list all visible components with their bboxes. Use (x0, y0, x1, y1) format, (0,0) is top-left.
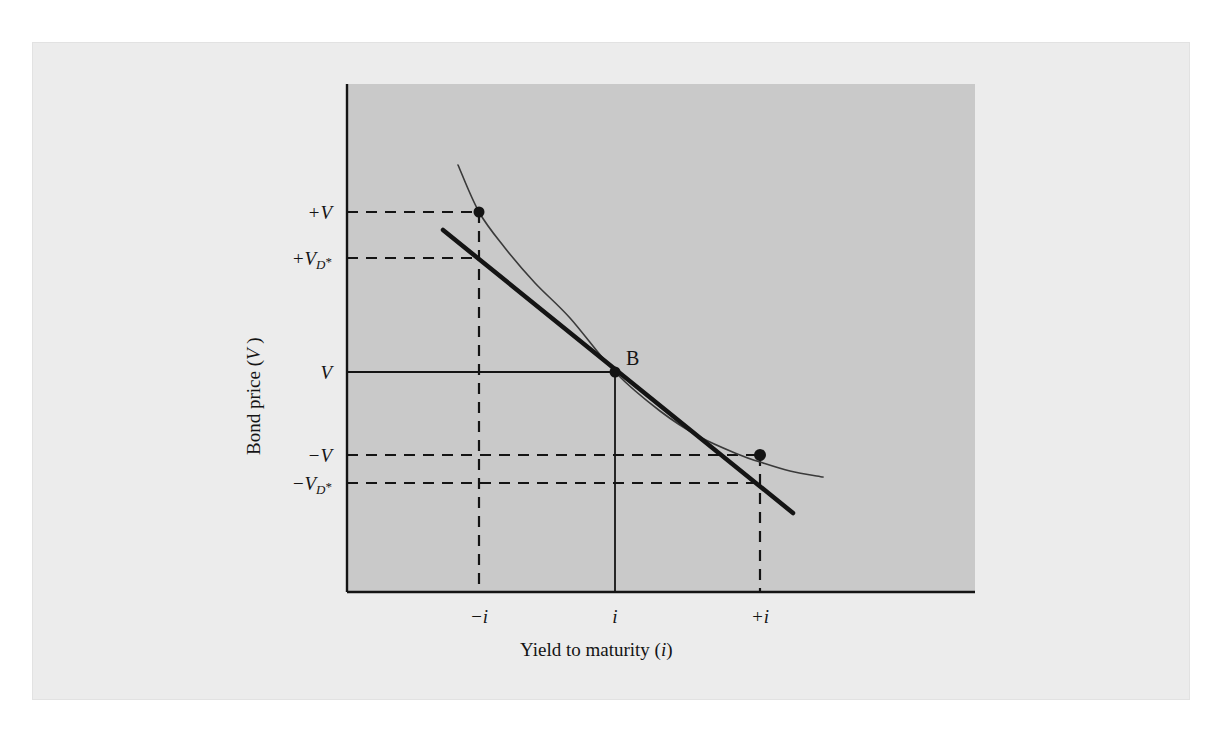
x-axis-title: Yield to maturity (i) (520, 640, 673, 659)
plot-area-background (347, 84, 975, 592)
x-tick-label-plus-i: +i (720, 607, 800, 626)
x-tick-label-i: i (575, 607, 655, 626)
tangency-point-b-label: B (626, 348, 639, 368)
x-tick-label-minus-i: −i (439, 607, 519, 626)
curve-point-at-plus-i-marker (754, 449, 766, 461)
figure-root: +V +VD* V −V −VD* −i i +i B Bond price (… (0, 0, 1228, 741)
bond-price-yield-chart (0, 0, 1228, 741)
tangency-point-b-marker (610, 367, 621, 378)
y-tick-label-minus-v-d-star: −VD* (232, 474, 332, 496)
y-tick-label-plus-v-d-star: +VD* (232, 249, 332, 271)
y-axis-title: Bond price (V ) (244, 337, 263, 455)
curve-point-at-minus-i-marker (474, 207, 485, 218)
y-tick-label-plus-v: +V (232, 203, 332, 225)
